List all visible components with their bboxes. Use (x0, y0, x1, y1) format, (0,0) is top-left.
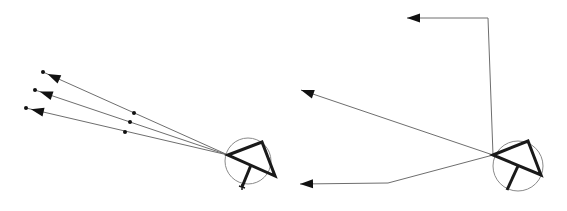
arrowhead-icon (407, 14, 420, 23)
ray-line-3 (300, 155, 493, 184)
diagram-canvas (0, 0, 567, 211)
mid-dot (132, 111, 136, 115)
diagram-svg (0, 0, 567, 211)
left-figure (24, 70, 275, 190)
stem-line (507, 166, 518, 190)
arrowhead-icon (48, 74, 62, 83)
arrowhead-icon (31, 108, 45, 117)
ray-line-1 (407, 18, 493, 155)
ray-line-2 (301, 90, 493, 155)
triangle-body (228, 142, 275, 176)
ray-line-3 (26, 108, 228, 155)
tail-dot (24, 106, 28, 110)
tail-dot (41, 70, 45, 74)
arrowhead-icon (301, 90, 315, 99)
arrowhead-icon (300, 179, 313, 188)
right-figure (300, 14, 543, 192)
mid-dot (128, 120, 132, 124)
mid-dot (123, 130, 127, 134)
tail-dot (33, 88, 37, 92)
arrowhead-icon (40, 91, 54, 100)
